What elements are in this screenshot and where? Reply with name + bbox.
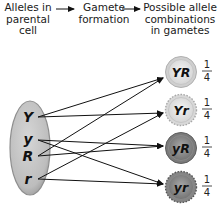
- numerator: 1: [204, 59, 210, 70]
- gamete-yR: yR: [166, 133, 197, 164]
- denominator: 4: [204, 72, 210, 83]
- allele-y: y: [23, 131, 33, 147]
- line-R-YR: [38, 78, 163, 156]
- gamete-yr: yr: [166, 172, 197, 203]
- segregation-diagram: Y y R r YR Yr yR yr 1 4 1 4 1 4 1: [0, 0, 219, 220]
- allele-r: r: [25, 171, 33, 187]
- gamete-label: YR: [172, 65, 191, 80]
- line-y-yr: [38, 140, 163, 184]
- line-R-yR: [38, 146, 163, 156]
- denominator: 4: [204, 187, 210, 198]
- line-r-yr: [38, 179, 163, 184]
- allele-R: R: [23, 148, 34, 164]
- numerator: 1: [204, 174, 210, 185]
- line-Y-Yr: [38, 113, 163, 117]
- gamete-label: yR: [172, 141, 190, 156]
- denominator: 4: [204, 110, 210, 121]
- numerator: 1: [204, 135, 210, 146]
- numerator: 1: [204, 97, 210, 108]
- gamete-label: yr: [174, 180, 189, 195]
- fraction-yR: 1 4: [202, 135, 212, 159]
- fraction-Yr: 1 4: [202, 97, 212, 121]
- gamete-Yr: Yr: [166, 95, 197, 126]
- denominator: 4: [204, 148, 210, 159]
- gamete-label: Yr: [173, 103, 189, 118]
- line-r-Yr: [38, 113, 163, 179]
- gamete-YR: YR: [166, 57, 197, 88]
- line-y-yR: [38, 140, 163, 146]
- fraction-yr: 1 4: [202, 174, 212, 198]
- fraction-YR: 1 4: [202, 59, 212, 83]
- line-Y-YR: [38, 78, 163, 117]
- connection-lines: [38, 78, 163, 184]
